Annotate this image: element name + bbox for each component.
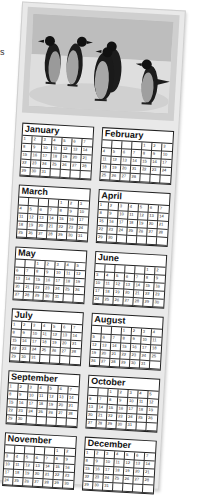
month-june: June123456789101112131415161718192021222… <box>92 251 167 309</box>
month-may: May1234567891011121314151617181920212223… <box>12 246 87 304</box>
penguin-photo <box>28 14 173 114</box>
day-cell <box>113 483 123 492</box>
day-cell: 28 <box>43 479 53 488</box>
day-cell: 30 <box>20 354 30 363</box>
day-cell: 29 <box>7 415 17 424</box>
day-cell: 29 <box>106 421 116 430</box>
day-grid: 1234567891011121314151617181920212223242… <box>100 140 172 184</box>
day-cell: 29 <box>57 232 67 241</box>
day-cell: 27 <box>33 479 43 488</box>
day-cell: 31 <box>140 361 150 370</box>
day-cell: 25 <box>103 296 113 305</box>
day-cell: 27 <box>100 358 110 367</box>
months-grid: January123456789101112131415161718192021… <box>2 123 174 495</box>
day-cell: 24 <box>3 477 13 486</box>
day-cell <box>40 355 50 364</box>
day-cell: 24 <box>93 296 103 305</box>
day-cell <box>50 169 60 178</box>
day-grid: 1234567891011121314151617181920212223242… <box>93 264 165 308</box>
day-cell: 28 <box>47 231 57 240</box>
day-cell <box>46 417 56 426</box>
day-cell: 28 <box>23 292 33 301</box>
day-cell: 30 <box>130 360 140 369</box>
day-cell: 29 <box>53 480 63 489</box>
day-cell <box>117 235 127 244</box>
day-cell: 31 <box>77 233 87 242</box>
day-cell: 30 <box>30 168 40 177</box>
day-cell: 29 <box>97 234 107 243</box>
day-grid: 1234567891011121314151617181920212223242… <box>20 136 92 180</box>
day-cell <box>147 237 157 246</box>
day-cell <box>56 418 66 427</box>
month-october: October123456789101112131415161718192021… <box>85 375 160 433</box>
day-grid: 1234567891011121314151617181920212223242… <box>7 383 79 427</box>
day-cell: 27 <box>37 231 47 240</box>
day-cell: 27 <box>13 291 23 300</box>
day-cell <box>27 416 37 425</box>
day-cell: 30 <box>63 480 73 489</box>
day-cell: 28 <box>110 359 120 368</box>
day-cell: 27 <box>120 173 130 182</box>
day-grid: 1234567891011121314151617181920212223242… <box>17 198 89 242</box>
day-cell <box>63 294 73 303</box>
month-november: November12345678910111213141516171819202… <box>2 432 77 490</box>
photo-frame <box>22 7 180 121</box>
day-grid: 1234567891011121314151617181920212223242… <box>3 445 75 489</box>
day-cell <box>127 236 137 245</box>
day-cell <box>70 170 80 179</box>
day-cell <box>160 175 170 184</box>
day-cell: 26 <box>23 478 33 487</box>
day-cell: 30 <box>93 482 103 491</box>
day-cell: 26 <box>27 230 37 239</box>
day-cell: 31 <box>126 422 136 431</box>
day-cell: 30 <box>153 299 163 308</box>
day-cell: 29 <box>33 293 43 302</box>
day-cell: 27 <box>86 420 96 429</box>
day-cell <box>157 237 167 246</box>
day-cell <box>143 485 153 494</box>
day-cell: 25 <box>13 478 23 487</box>
day-cell <box>150 175 160 184</box>
day-cell <box>133 484 143 493</box>
day-cell: 28 <box>96 420 106 429</box>
day-cell <box>70 357 80 366</box>
month-february: February12345678910111213141516171819202… <box>99 127 174 185</box>
day-cell: 27 <box>123 298 133 307</box>
day-cell: 25 <box>17 230 27 239</box>
day-cell <box>60 356 70 365</box>
day-cell: 29 <box>10 353 20 362</box>
month-january: January123456789101112131415161718192021… <box>19 123 94 181</box>
day-cell: 29 <box>143 299 153 308</box>
day-cell: 28 <box>133 298 143 307</box>
month-april: April12345678910111213141516171819202122… <box>96 189 171 247</box>
day-cell <box>66 419 76 428</box>
wall-calendar: January123456789101112131415161718192021… <box>0 1 186 489</box>
day-cell: 30 <box>67 232 77 241</box>
day-grid: 1234567891011121314151617181920212223242… <box>86 388 158 432</box>
day-cell <box>140 174 150 183</box>
day-cell: 28 <box>130 174 140 183</box>
day-cell <box>80 171 90 180</box>
month-september: September1234567891011121314151617181920… <box>6 370 81 428</box>
day-cell: 31 <box>53 294 63 303</box>
day-cell <box>150 361 160 370</box>
day-cell <box>37 417 47 426</box>
day-cell: 29 <box>20 168 30 177</box>
day-cell <box>137 236 147 245</box>
day-cell: 26 <box>90 358 100 367</box>
day-cell: 26 <box>113 297 123 306</box>
day-grid: 1234567891011121314151617181920212223242… <box>90 326 162 370</box>
day-cell <box>136 422 146 431</box>
day-cell: 29 <box>120 359 130 368</box>
month-december: December12345678910111213141516171819202… <box>82 437 157 495</box>
day-cell <box>60 170 70 179</box>
day-cell: 30 <box>116 421 126 430</box>
day-cell: 31 <box>30 354 40 363</box>
day-cell <box>73 295 83 304</box>
day-cell: 25 <box>100 172 110 181</box>
month-august: August1234567891011121314151617181920212… <box>89 313 164 371</box>
day-grid: 1234567891011121314151617181920212223242… <box>10 321 82 365</box>
edge-text-fragment: s <box>0 47 4 57</box>
day-cell <box>50 356 60 365</box>
day-cell: 29 <box>83 482 93 491</box>
